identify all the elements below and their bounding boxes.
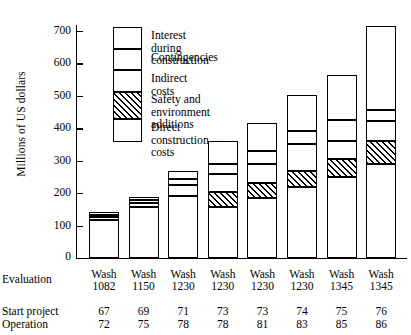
- bar-2: [129, 197, 159, 258]
- bar-2-segment-5: [129, 197, 159, 200]
- bar-8-segment-3: [366, 121, 396, 140]
- bar-7-segment-5: [327, 75, 357, 120]
- operation-cell-1: 72: [82, 318, 126, 330]
- bar-5-segment-1: [247, 198, 277, 258]
- bar-3-segment-1: [168, 196, 198, 258]
- bar-7-segment-2: [327, 159, 357, 177]
- bar-4-segment-2: [208, 192, 238, 207]
- bar-4: [208, 141, 238, 258]
- legend-key-5: [113, 119, 142, 142]
- y-tick-label-600: 600: [31, 57, 71, 69]
- bar-1-segment-3: [89, 217, 119, 220]
- bar-5-segment-3: [247, 164, 277, 183]
- bar-6: [287, 95, 317, 258]
- y-tick-label-700: 700: [31, 25, 71, 37]
- bar-4-segment-5: [208, 141, 238, 164]
- bar-6-segment-5: [287, 95, 317, 131]
- bar-5-segment-2: [247, 183, 277, 198]
- start-project-cell-5: 73: [240, 305, 284, 317]
- operation-cell-8: 86: [359, 318, 403, 330]
- bar-5-segment-5: [247, 123, 277, 151]
- evaluation-cell-2: Wash1150: [122, 268, 166, 293]
- y-axis-title: Millions of US dollars: [15, 29, 27, 219]
- bar-6-segment-1: [287, 187, 317, 258]
- operation-cell-7: 85: [320, 318, 364, 330]
- start-project-cell-2: 69: [122, 305, 166, 317]
- bar-6-segment-2: [287, 171, 317, 187]
- bar-8-segment-2: [366, 141, 396, 164]
- bar-3-segment-4: [168, 179, 198, 185]
- row-label-operation: Operation: [2, 318, 48, 330]
- y-tick-label-200: 200: [31, 187, 71, 199]
- start-project-cell-6: 74: [280, 305, 324, 317]
- bar-8-segment-5: [366, 26, 396, 110]
- bar-6-segment-4: [287, 131, 317, 143]
- operation-cell-5: 81: [240, 318, 284, 330]
- y-tick-label-0: 0: [31, 251, 71, 263]
- operation-cell-2: 75: [122, 318, 166, 330]
- legend-key-2: [113, 49, 142, 71]
- y-tick-label-300: 300: [31, 155, 71, 167]
- legend-label-2: Contingencies: [151, 52, 218, 65]
- bar-7: [327, 75, 357, 258]
- legend-key-4: [113, 92, 142, 120]
- bar-1: [89, 212, 119, 258]
- y-tick-label-100: 100: [31, 220, 71, 232]
- bar-3-segment-3: [168, 185, 198, 196]
- bar-1-segment-1: [89, 220, 119, 258]
- bar-5: [247, 123, 277, 258]
- bar-1-segment-4: [89, 215, 119, 217]
- bar-7-segment-1: [327, 177, 357, 258]
- bar-8: [366, 26, 396, 258]
- stacked-bar-chart: Millions of US dollars 70060050040030020…: [0, 0, 411, 335]
- evaluation-cell-6: Wash1230: [280, 268, 324, 293]
- start-project-cell-3: 71: [161, 305, 205, 317]
- y-tick-label-400: 400: [31, 122, 71, 134]
- evaluation-cell-7: Wash1345: [320, 268, 364, 293]
- start-project-cell-8: 76: [359, 305, 403, 317]
- row-label-evaluation: Evaluation: [2, 273, 52, 285]
- legend-label-5: Direct construction costs: [151, 122, 209, 160]
- bar-2-segment-1: [129, 207, 159, 258]
- operation-cell-6: 83: [280, 318, 324, 330]
- evaluation-cell-4: Wash1230: [201, 268, 245, 293]
- bar-6-segment-3: [287, 144, 317, 172]
- bar-8-segment-4: [366, 110, 396, 121]
- start-project-cell-4: 73: [201, 305, 245, 317]
- x-axis-line: [76, 258, 407, 259]
- row-label-start-project: Start project: [2, 305, 59, 317]
- bar-3-segment-5: [168, 171, 198, 178]
- start-project-cell-1: 67: [82, 305, 126, 317]
- bar-1-segment-5: [89, 212, 119, 215]
- evaluation-cell-5: Wash1230: [240, 268, 284, 293]
- bar-3: [168, 171, 198, 258]
- bar-7-segment-4: [327, 120, 357, 141]
- bar-4-segment-1: [208, 207, 238, 258]
- bar-2-segment-3: [129, 203, 159, 207]
- evaluation-cell-8: Wash1345: [359, 268, 403, 293]
- bar-4-segment-3: [208, 174, 238, 192]
- legend-key-3: [113, 70, 142, 92]
- legend-key-1: [113, 27, 142, 49]
- evaluation-cell-3: Wash1230: [161, 268, 205, 293]
- bar-7-segment-3: [327, 141, 357, 159]
- bar-5-segment-4: [247, 151, 277, 164]
- bar-8-segment-1: [366, 164, 396, 258]
- y-tick-label-500: 500: [31, 90, 71, 102]
- operation-cell-3: 78: [161, 318, 205, 330]
- evaluation-cell-1: Wash1082: [82, 268, 126, 293]
- start-project-cell-7: 75: [320, 305, 364, 317]
- operation-cell-4: 78: [201, 318, 245, 330]
- bar-2-segment-4: [129, 200, 159, 203]
- bar-4-segment-4: [208, 164, 238, 174]
